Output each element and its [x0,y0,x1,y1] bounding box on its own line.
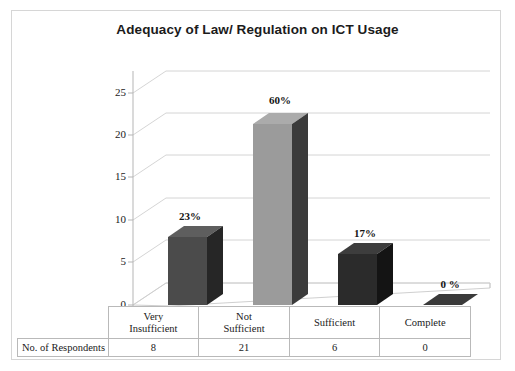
chart-container: Adequacy of Law/ Regulation on ICT Usage [0,0,515,371]
bar-not-sufficient [253,113,308,305]
table-row-values: No. of Respondents 8 21 6 0 [18,339,471,357]
y-tick-label-10: 10 [96,213,126,225]
category-line2: Sufficient [199,323,289,335]
data-label-very-insufficient: 23% [160,210,220,222]
data-label-sufficient: 17% [335,227,395,239]
table-cell-category-0: Very Insufficient [108,307,199,339]
bar-complete [423,294,478,305]
bar-sufficient [338,243,393,305]
category-line1: Sufficient [290,317,380,329]
data-table: Very Insufficient Not Sufficient Suffici… [17,306,471,357]
table-cell-value-1: 21 [199,339,290,357]
table-cell-category-3: Complete [380,307,471,339]
table-cell-category-1: Not Sufficient [199,307,290,339]
table-cell-category-2: Sufficient [289,307,380,339]
data-label-complete: 0 % [420,278,480,290]
table-row-header: No. of Respondents [18,339,109,357]
table-cell-value-3: 0 [380,339,471,357]
bar-very-insufficient [168,226,223,305]
y-tick-label-25: 25 [96,86,126,98]
table-cell-value-0: 8 [108,339,199,357]
y-tick-label-5: 5 [96,255,126,267]
category-line2: Insufficient [109,323,199,335]
table-corner-cell [18,307,109,339]
y-tick-label-15: 15 [96,170,126,182]
category-line1: Very [109,311,199,323]
y-axis-ticks [128,93,133,305]
category-line1: Not [199,311,289,323]
data-label-not-sufficient: 60% [250,94,310,106]
category-line1: Complete [380,317,470,329]
y-tick-label-20: 20 [96,128,126,140]
table-row-categories: Very Insufficient Not Sufficient Suffici… [18,307,471,339]
table-cell-value-2: 6 [289,339,380,357]
